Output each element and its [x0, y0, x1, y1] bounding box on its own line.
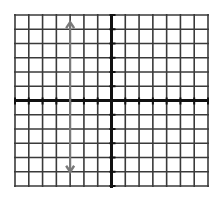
plotted-line: [66, 22, 74, 172]
coordinate-plane: [0, 0, 222, 198]
